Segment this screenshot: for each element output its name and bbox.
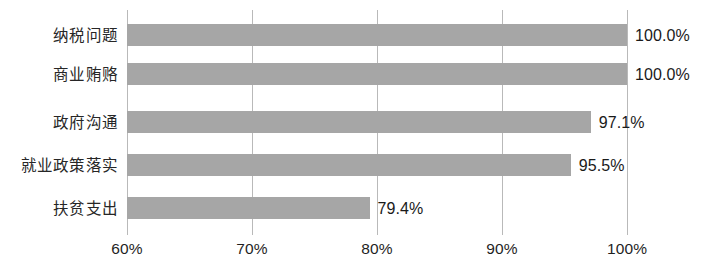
value-label-4: 79.4% (378, 201, 424, 217)
value-label-2: 97.1% (599, 115, 645, 131)
bar-1 (127, 63, 627, 85)
value-label-3: 95.5% (579, 158, 625, 174)
value-label-1: 100.0% (635, 67, 690, 83)
xtick-label-2: 80% (361, 241, 392, 257)
bar-3 (127, 154, 571, 176)
xtick-label-4: 100% (607, 241, 647, 257)
category-label-4: 扶贫支出 (53, 201, 118, 217)
xtick-label-3: 90% (486, 241, 517, 257)
category-label-2: 政府沟通 (53, 115, 118, 131)
category-label-3: 就业政策落实 (21, 158, 118, 174)
bar-4 (127, 197, 370, 219)
category-label-0: 纳税问题 (53, 28, 118, 44)
bar-2 (127, 111, 591, 133)
xtick-label-0: 60% (111, 241, 142, 257)
value-label-0: 100.0% (635, 28, 690, 44)
bar-chart: 纳税问题 商业贿赂 政府沟通 就业政策落实 扶贫支出 100.0% 100.0%… (0, 0, 706, 273)
xtick-label-1: 70% (236, 241, 267, 257)
category-label-1: 商业贿赂 (53, 67, 118, 83)
bar-0 (127, 24, 627, 46)
